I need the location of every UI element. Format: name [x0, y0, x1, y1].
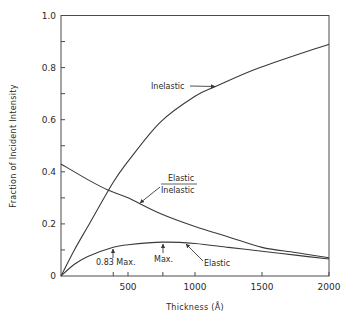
y-tick-label: 0.6 — [42, 115, 57, 125]
arrow-ratio-icon — [140, 187, 160, 203]
label-083-max: 0.83 Max. — [96, 258, 135, 267]
label-ratio-denominator: Inelastic — [161, 186, 194, 195]
y-tick-label: 0.8 — [42, 63, 57, 73]
y-tick-label: 0.2 — [42, 219, 56, 229]
label-ratio-numerator: Elastic — [168, 174, 194, 183]
label-max: Max. — [154, 255, 173, 264]
x-axis: 500100015002000 — [113, 272, 340, 292]
y-tick-label: 0.4 — [42, 167, 57, 177]
arrow-elastic-icon — [186, 244, 203, 261]
curves — [61, 44, 329, 276]
x-tick-label: 2000 — [318, 282, 341, 292]
label-inelastic: Inelastic — [151, 82, 184, 91]
chart: 00.20.40.60.81.0 500100015002000 Fractio… — [0, 0, 351, 324]
y-tick-label: 1.0 — [42, 11, 57, 21]
x-axis-title: Thickness (Å) — [165, 301, 224, 312]
x-tick-label: 1500 — [251, 282, 274, 292]
y-tick-label: 0 — [50, 271, 56, 281]
arrow-inelastic-icon — [190, 86, 215, 87]
label-elastic: Elastic — [204, 259, 230, 268]
y-axis: 00.20.40.60.81.0 — [42, 11, 65, 282]
plot-frame — [61, 16, 329, 277]
x-tick-label: 1000 — [184, 282, 207, 292]
y-axis-title: Fraction of Incident Intensity — [9, 84, 18, 207]
x-tick-label: 500 — [119, 282, 136, 292]
series-inelastic — [61, 44, 329, 276]
